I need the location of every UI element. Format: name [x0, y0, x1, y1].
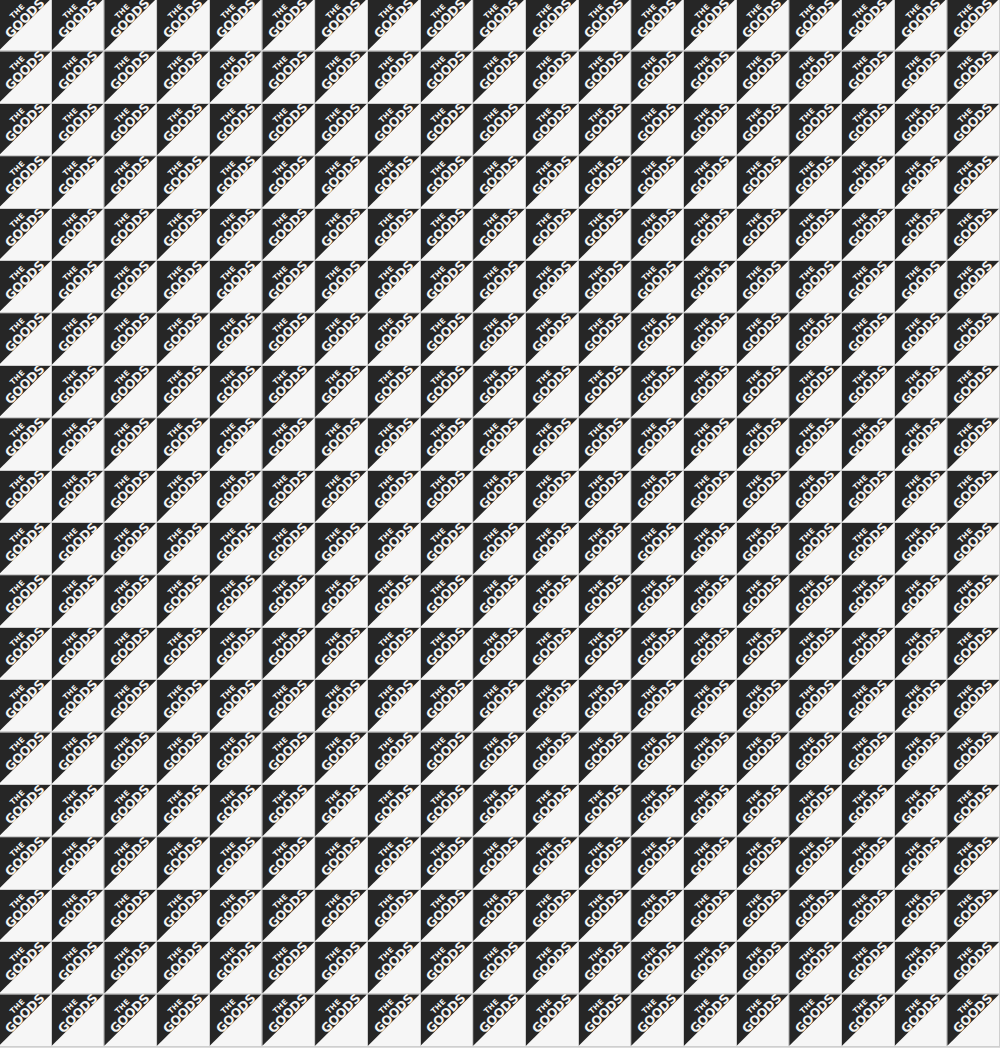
pattern-tile: THEGOODS — [368, 471, 421, 523]
pattern-tile: THEGOODS — [684, 156, 737, 208]
pattern-tile: THEGOODS — [104, 942, 157, 994]
pattern-tile: THEGOODS — [104, 366, 157, 418]
pattern-tile: THEGOODS — [842, 261, 895, 313]
pattern-tile: THEGOODS — [895, 680, 948, 732]
pattern-tile: THEGOODS — [104, 575, 157, 627]
pattern-tile: THEGOODS — [0, 785, 52, 837]
pattern-tile: THEGOODS — [473, 418, 526, 470]
pattern-tile: THEGOODS — [895, 575, 948, 627]
pattern-tile: THEGOODS — [473, 366, 526, 418]
pattern-tile: THEGOODS — [579, 0, 632, 51]
pattern-tile: THEGOODS — [579, 261, 632, 313]
pattern-tile: THEGOODS — [52, 366, 105, 418]
pattern-tile: THEGOODS — [210, 51, 263, 103]
pattern-tile: THEGOODS — [0, 628, 52, 680]
pattern-tile: THEGOODS — [315, 890, 368, 942]
pattern-tile: THEGOODS — [0, 51, 52, 103]
pattern-tile: THEGOODS — [210, 523, 263, 575]
pattern-tile: THEGOODS — [684, 51, 737, 103]
pattern-tile: THEGOODS — [526, 0, 579, 51]
pattern-tile: THEGOODS — [157, 680, 210, 732]
pattern-tile: THEGOODS — [895, 890, 948, 942]
pattern-tile: THEGOODS — [631, 209, 684, 261]
pattern-tile: THEGOODS — [789, 261, 842, 313]
pattern-tile: THEGOODS — [473, 732, 526, 784]
pattern-tile: THEGOODS — [579, 837, 632, 889]
pattern-tile: THEGOODS — [684, 313, 737, 365]
pattern-tile: THEGOODS — [315, 366, 368, 418]
pattern-tile: THEGOODS — [104, 732, 157, 784]
pattern-tile: THEGOODS — [421, 523, 474, 575]
pattern-tile: THEGOODS — [473, 51, 526, 103]
pattern-tile: THEGOODS — [157, 994, 210, 1046]
pattern-tile: THEGOODS — [157, 418, 210, 470]
pattern-tile: THEGOODS — [631, 471, 684, 523]
pattern-tile: THEGOODS — [262, 104, 315, 156]
pattern-tile: THEGOODS — [789, 209, 842, 261]
pattern-tile: THEGOODS — [526, 104, 579, 156]
pattern-tile: THEGOODS — [789, 942, 842, 994]
pattern-tile: THEGOODS — [737, 837, 790, 889]
pattern-tile: THEGOODS — [0, 209, 52, 261]
pattern-tile: THEGOODS — [52, 418, 105, 470]
pattern-tile: THEGOODS — [842, 366, 895, 418]
pattern-tile: THEGOODS — [579, 628, 632, 680]
pattern-tile: THEGOODS — [104, 156, 157, 208]
pattern-tile: THEGOODS — [0, 994, 52, 1046]
pattern-tile: THEGOODS — [947, 732, 1000, 784]
pattern-tile: THEGOODS — [262, 366, 315, 418]
pattern-tile: THEGOODS — [631, 680, 684, 732]
pattern-tile: THEGOODS — [473, 890, 526, 942]
pattern-tile: THEGOODS — [368, 837, 421, 889]
pattern-tile: THEGOODS — [210, 680, 263, 732]
pattern-tile: THEGOODS — [421, 837, 474, 889]
pattern-tile: THEGOODS — [0, 261, 52, 313]
pattern-tile: THEGOODS — [104, 209, 157, 261]
pattern-tile: THEGOODS — [315, 418, 368, 470]
pattern-tile: THEGOODS — [737, 0, 790, 51]
pattern-tile: THEGOODS — [315, 785, 368, 837]
pattern-tile: THEGOODS — [52, 209, 105, 261]
pattern-tile: THEGOODS — [842, 785, 895, 837]
pattern-tile: THEGOODS — [737, 313, 790, 365]
pattern-tile: THEGOODS — [842, 628, 895, 680]
pattern-tile: THEGOODS — [631, 261, 684, 313]
pattern-tile: THEGOODS — [579, 156, 632, 208]
pattern-tile: THEGOODS — [0, 837, 52, 889]
pattern-tile: THEGOODS — [631, 732, 684, 784]
pattern-tile: THEGOODS — [0, 0, 52, 51]
pattern-tile: THEGOODS — [789, 156, 842, 208]
pattern-tile: THEGOODS — [368, 366, 421, 418]
pattern-tile: THEGOODS — [895, 156, 948, 208]
pattern-tile: THEGOODS — [631, 837, 684, 889]
pattern-tile: THEGOODS — [579, 313, 632, 365]
pattern-tile: THEGOODS — [842, 156, 895, 208]
pattern-tile: THEGOODS — [947, 628, 1000, 680]
pattern-tile: THEGOODS — [157, 51, 210, 103]
pattern-tile: THEGOODS — [315, 575, 368, 627]
pattern-tile: THEGOODS — [210, 994, 263, 1046]
goods-pattern-grid: THEGOODSTHEGOODSTHEGOODSTHEGOODSTHEGOODS… — [0, 0, 1000, 1047]
pattern-tile: THEGOODS — [368, 680, 421, 732]
pattern-tile: THEGOODS — [210, 575, 263, 627]
pattern-tile: THEGOODS — [526, 156, 579, 208]
pattern-tile: THEGOODS — [526, 785, 579, 837]
pattern-tile: THEGOODS — [737, 471, 790, 523]
pattern-tile: THEGOODS — [526, 628, 579, 680]
pattern-tile: THEGOODS — [368, 890, 421, 942]
pattern-tile: THEGOODS — [947, 366, 1000, 418]
pattern-tile: THEGOODS — [895, 732, 948, 784]
pattern-tile: THEGOODS — [684, 890, 737, 942]
pattern-tile: THEGOODS — [631, 575, 684, 627]
pattern-tile: THEGOODS — [52, 261, 105, 313]
pattern-tile: THEGOODS — [0, 366, 52, 418]
pattern-tile: THEGOODS — [262, 994, 315, 1046]
pattern-tile: THEGOODS — [789, 680, 842, 732]
pattern-tile: THEGOODS — [104, 0, 157, 51]
pattern-tile: THEGOODS — [262, 890, 315, 942]
pattern-tile: THEGOODS — [473, 994, 526, 1046]
pattern-tile: THEGOODS — [947, 261, 1000, 313]
pattern-tile: THEGOODS — [157, 0, 210, 51]
pattern-tile: THEGOODS — [315, 104, 368, 156]
pattern-tile: THEGOODS — [52, 994, 105, 1046]
